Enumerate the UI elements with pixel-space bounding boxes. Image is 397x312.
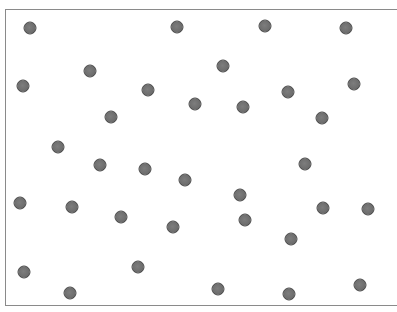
dot: [142, 84, 155, 97]
dot: [132, 261, 145, 274]
dot: [17, 80, 30, 93]
dot: [24, 22, 37, 35]
dot: [14, 197, 27, 210]
dot: [237, 101, 250, 114]
dot: [362, 203, 375, 216]
dot: [64, 287, 77, 300]
dot: [285, 233, 298, 246]
dot: [212, 283, 225, 296]
dot: [52, 141, 65, 154]
dot: [348, 78, 361, 91]
dot: [283, 288, 296, 301]
dot: [84, 65, 97, 78]
dot: [66, 201, 79, 214]
dot: [282, 86, 295, 99]
dot: [171, 21, 184, 34]
dot: [317, 202, 330, 215]
dot: [115, 211, 128, 224]
dot: [179, 174, 192, 187]
dot: [105, 111, 118, 124]
dot: [259, 20, 272, 33]
dot: [167, 221, 180, 234]
dot: [354, 279, 367, 292]
dot: [139, 163, 152, 176]
dot: [239, 214, 252, 227]
dot: [299, 158, 312, 171]
dot: [217, 60, 230, 73]
dot: [189, 98, 202, 111]
dot: [94, 159, 107, 172]
dot: [234, 189, 247, 202]
dot: [18, 266, 31, 279]
dot: [340, 22, 353, 35]
dot: [316, 112, 329, 125]
